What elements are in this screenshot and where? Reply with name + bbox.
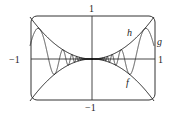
label-f: f — [126, 77, 130, 88]
x-left-label: −1 — [9, 54, 20, 65]
plot: 1 −1 −1 1 h g f — [0, 0, 171, 121]
x-right-label: 1 — [158, 54, 163, 65]
label-h: h — [127, 27, 132, 38]
y-top-label: 1 — [89, 3, 94, 14]
label-g: g — [157, 36, 162, 47]
plot-frame — [31, 16, 155, 100]
y-bottom-label: −1 — [85, 102, 96, 113]
